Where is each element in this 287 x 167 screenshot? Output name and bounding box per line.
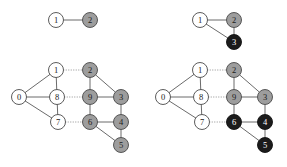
node-2[interactable]: 2	[83, 63, 98, 78]
node-circle-6[interactable]	[227, 115, 242, 130]
node-layer: 0187293645	[156, 63, 273, 153]
node-3[interactable]: 3	[227, 35, 242, 50]
node-6[interactable]: 6	[227, 115, 242, 130]
node-4[interactable]: 4	[114, 115, 129, 130]
node-5[interactable]: 5	[258, 138, 273, 153]
node-circle-2[interactable]	[227, 13, 242, 28]
node-circle-1[interactable]	[193, 63, 208, 78]
node-circle-6[interactable]	[83, 115, 98, 130]
node-8[interactable]: 8	[194, 90, 209, 105]
node-circle-8[interactable]	[50, 90, 65, 105]
graph-bottom-right-svg: 0187293645	[143, 55, 287, 167]
node-circle-1[interactable]	[49, 13, 64, 28]
node-4[interactable]: 4	[258, 115, 273, 130]
edge-n6-n5-solid	[96, 126, 115, 140]
node-2[interactable]: 2	[227, 63, 242, 78]
node-7[interactable]: 7	[51, 115, 66, 130]
graph-bottom-right: 0187293645	[143, 55, 287, 167]
graph-top-left: 12	[0, 0, 143, 55]
node-circle-9[interactable]	[227, 90, 242, 105]
node-1[interactable]: 1	[49, 13, 64, 28]
node-9[interactable]: 9	[83, 90, 98, 105]
edge-n6-n5-solid	[240, 126, 259, 140]
node-circle-0[interactable]	[156, 90, 171, 105]
edge-n1-n3-solid	[206, 24, 228, 38]
node-circle-7[interactable]	[195, 115, 210, 130]
node-6[interactable]: 6	[83, 115, 98, 130]
node-circle-2[interactable]	[83, 63, 98, 78]
node-7[interactable]: 7	[195, 115, 210, 130]
node-0[interactable]: 0	[156, 90, 171, 105]
node-circle-5[interactable]	[258, 138, 273, 153]
node-2[interactable]: 2	[83, 13, 98, 28]
node-layer: 0187293645	[12, 63, 129, 153]
node-circle-5[interactable]	[114, 138, 129, 153]
node-circle-0[interactable]	[12, 90, 27, 105]
node-2[interactable]: 2	[227, 13, 242, 28]
node-1[interactable]: 1	[193, 13, 208, 28]
edge-n0-n1-solid	[25, 74, 50, 93]
edge-n0-n7-solid	[169, 101, 196, 118]
node-3[interactable]: 3	[258, 90, 273, 105]
edge-layer	[169, 70, 265, 141]
node-circle-7[interactable]	[51, 115, 66, 130]
node-3[interactable]: 3	[114, 90, 129, 105]
node-circle-3[interactable]	[227, 35, 242, 50]
node-circle-8[interactable]	[194, 90, 209, 105]
edge-layer	[25, 70, 121, 141]
edge-n2-n3-solid	[239, 75, 259, 93]
graph-top-right-svg: 123	[143, 0, 287, 55]
graph-top-right: 123	[143, 0, 287, 55]
figure-canvas: 1212301872936450187293645	[0, 0, 287, 167]
node-circle-1[interactable]	[193, 13, 208, 28]
node-0[interactable]: 0	[12, 90, 27, 105]
graph-bottom-left-svg: 0187293645	[0, 55, 143, 167]
edge-n2-n3-solid	[95, 75, 115, 93]
node-circle-4[interactable]	[258, 115, 273, 130]
node-9[interactable]: 9	[227, 90, 242, 105]
node-circle-3[interactable]	[114, 90, 129, 105]
node-1[interactable]: 1	[49, 63, 64, 78]
edge-n0-n7-solid	[25, 101, 52, 118]
graph-bottom-left: 0187293645	[0, 55, 143, 167]
node-1[interactable]: 1	[193, 63, 208, 78]
node-circle-3[interactable]	[258, 90, 273, 105]
node-8[interactable]: 8	[50, 90, 65, 105]
node-circle-4[interactable]	[114, 115, 129, 130]
node-circle-1[interactable]	[49, 63, 64, 78]
graph-top-left-svg: 12	[0, 0, 143, 55]
node-circle-2[interactable]	[227, 63, 242, 78]
edge-n0-n1-solid	[169, 74, 194, 93]
node-circle-9[interactable]	[83, 90, 98, 105]
node-5[interactable]: 5	[114, 138, 129, 153]
node-circle-2[interactable]	[83, 13, 98, 28]
